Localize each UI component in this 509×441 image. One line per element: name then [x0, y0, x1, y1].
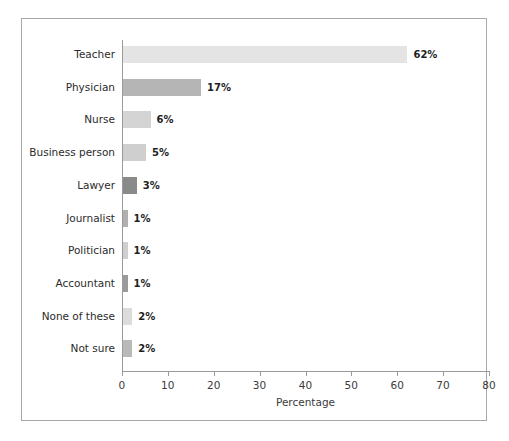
bar-row: Accountant1%: [0, 273, 509, 294]
bar-value-label: 62%: [407, 44, 437, 65]
bar-value-label: 1%: [128, 273, 151, 294]
bar-row: Nurse6%: [0, 109, 509, 130]
x-tick-mark: [489, 371, 490, 376]
bar-row: Journalist1%: [0, 208, 509, 229]
x-tick-mark: [214, 371, 215, 376]
bar-row: Business person5%: [0, 142, 509, 163]
category-label: Politician: [0, 240, 122, 261]
category-label: Teacher: [0, 44, 122, 65]
bar-value-label: 3%: [137, 175, 160, 196]
category-label: Nurse: [0, 109, 122, 130]
x-tick-label: 40: [286, 379, 326, 391]
x-tick-mark: [306, 371, 307, 376]
bar-value-label: 2%: [132, 338, 155, 359]
x-tick-mark: [443, 371, 444, 376]
x-tick-label: 10: [148, 379, 188, 391]
category-label: None of these: [0, 306, 122, 327]
category-label: Lawyer: [0, 175, 122, 196]
bar-value-label: 1%: [128, 240, 151, 261]
bar: [123, 308, 132, 325]
x-tick-label: 80: [469, 379, 509, 391]
x-tick-label: 50: [331, 379, 371, 391]
category-label: Accountant: [0, 273, 122, 294]
bar-row: Lawyer3%: [0, 175, 509, 196]
x-tick-label: 60: [377, 379, 417, 391]
category-label: Business person: [0, 142, 122, 163]
bar-row: Physician17%: [0, 77, 509, 98]
chart-figure: 01020304050607080 Teacher62%Physician17%…: [0, 0, 509, 441]
bar-row: None of these2%: [0, 306, 509, 327]
x-tick-mark: [260, 371, 261, 376]
bar: [123, 340, 132, 357]
x-tick-mark: [122, 371, 123, 376]
x-axis-title: Percentage: [122, 396, 489, 408]
bar-row: Politician1%: [0, 240, 509, 261]
category-label: Not sure: [0, 338, 122, 359]
bar-value-label: 2%: [132, 306, 155, 327]
category-label: Journalist: [0, 208, 122, 229]
x-tick-label: 20: [194, 379, 234, 391]
bar: [123, 144, 146, 161]
x-tick-label: 70: [423, 379, 463, 391]
bar: [123, 177, 137, 194]
bar-value-label: 5%: [146, 142, 169, 163]
x-tick-mark: [351, 371, 352, 376]
bar: [123, 111, 151, 128]
bar-value-label: 6%: [151, 109, 174, 130]
bar: [123, 46, 407, 63]
x-tick-label: 0: [102, 379, 142, 391]
bar-value-label: 1%: [128, 208, 151, 229]
x-tick-label: 30: [240, 379, 280, 391]
bar-row: Teacher62%: [0, 44, 509, 65]
x-tick-mark: [168, 371, 169, 376]
bar: [123, 79, 201, 96]
category-label: Physician: [0, 77, 122, 98]
bar-row: Not sure2%: [0, 338, 509, 359]
bar-value-label: 17%: [201, 77, 231, 98]
x-tick-mark: [397, 371, 398, 376]
